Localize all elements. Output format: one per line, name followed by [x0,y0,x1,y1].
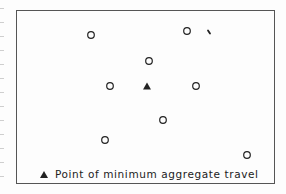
location-point-icon [88,32,95,39]
legend-label: Point of minimum aggregate travel [55,168,259,180]
location-point-icon [244,152,251,159]
location-point-icon [193,83,200,90]
ink-mark-icon [208,31,210,34]
location-point-icon [160,117,167,124]
location-point-icon [146,58,153,65]
location-point-icon [107,83,114,90]
legend: Point of minimum aggregate travel [40,168,259,180]
diagram-plot [0,0,286,194]
triangle-icon [40,171,48,178]
minimum-travel-point-icon [143,83,151,90]
location-point-icon [102,137,109,144]
location-point-icon [184,28,191,35]
